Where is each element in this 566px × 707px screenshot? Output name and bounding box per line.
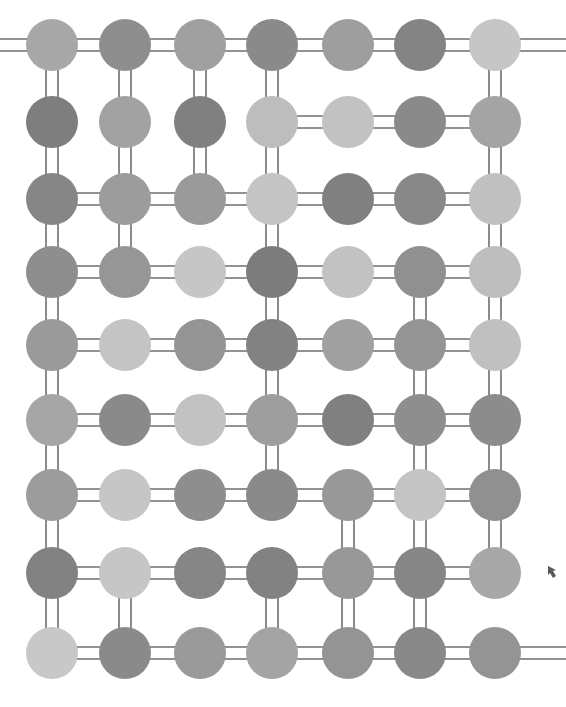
lattice-node[interactable]: [99, 627, 151, 679]
lattice-node[interactable]: [322, 319, 374, 371]
lattice-node[interactable]: [469, 319, 521, 371]
lattice-node[interactable]: [99, 246, 151, 298]
lattice-node[interactable]: [26, 96, 78, 148]
lattice-node[interactable]: [394, 547, 446, 599]
lattice-node[interactable]: [246, 19, 298, 71]
lattice-node[interactable]: [469, 394, 521, 446]
lattice-node[interactable]: [174, 469, 226, 521]
lattice-node[interactable]: [322, 469, 374, 521]
lattice-node[interactable]: [469, 19, 521, 71]
lattice-node[interactable]: [322, 173, 374, 225]
right-edge-tick-icon: [548, 566, 556, 578]
lattice-node[interactable]: [99, 394, 151, 446]
lattice-node[interactable]: [322, 394, 374, 446]
lattice-node[interactable]: [246, 627, 298, 679]
lattice-node[interactable]: [469, 173, 521, 225]
lattice-node[interactable]: [26, 627, 78, 679]
lattice-node[interactable]: [322, 19, 374, 71]
lattice-diagram: [0, 0, 566, 707]
lattice-node[interactable]: [322, 547, 374, 599]
lattice-node[interactable]: [99, 319, 151, 371]
lattice-node[interactable]: [394, 246, 446, 298]
lattice-node[interactable]: [26, 547, 78, 599]
lattice-node[interactable]: [246, 469, 298, 521]
lattice-node[interactable]: [394, 627, 446, 679]
lattice-node[interactable]: [394, 469, 446, 521]
lattice-node[interactable]: [394, 394, 446, 446]
lattice-node[interactable]: [246, 319, 298, 371]
lattice-node[interactable]: [469, 627, 521, 679]
lattice-node[interactable]: [174, 19, 226, 71]
lattice-node[interactable]: [469, 547, 521, 599]
lattice-node[interactable]: [394, 96, 446, 148]
lattice-node[interactable]: [246, 173, 298, 225]
lattice-node[interactable]: [99, 469, 151, 521]
lattice-node[interactable]: [469, 96, 521, 148]
lattice-node[interactable]: [469, 246, 521, 298]
lattice-node[interactable]: [322, 246, 374, 298]
lattice-node[interactable]: [26, 173, 78, 225]
lattice-node[interactable]: [99, 96, 151, 148]
lattice-node[interactable]: [26, 246, 78, 298]
lattice-node[interactable]: [246, 96, 298, 148]
nodes-layer: [26, 19, 521, 679]
lattice-node[interactable]: [469, 469, 521, 521]
lattice-node[interactable]: [99, 173, 151, 225]
lattice-node[interactable]: [174, 246, 226, 298]
lattice-node[interactable]: [246, 246, 298, 298]
lattice-node[interactable]: [99, 19, 151, 71]
lattice-node[interactable]: [26, 394, 78, 446]
lattice-node[interactable]: [174, 96, 226, 148]
lattice-node[interactable]: [26, 19, 78, 71]
lattice-node[interactable]: [174, 627, 226, 679]
lattice-node[interactable]: [99, 547, 151, 599]
lattice-node[interactable]: [246, 394, 298, 446]
lattice-canvas: [0, 0, 566, 707]
lattice-node[interactable]: [26, 469, 78, 521]
lattice-node[interactable]: [174, 319, 226, 371]
markers-layer: [548, 566, 556, 578]
lattice-node[interactable]: [394, 319, 446, 371]
lattice-node[interactable]: [322, 96, 374, 148]
lattice-node[interactable]: [322, 627, 374, 679]
lattice-node[interactable]: [246, 547, 298, 599]
lattice-node[interactable]: [174, 547, 226, 599]
lattice-node[interactable]: [26, 319, 78, 371]
lattice-node[interactable]: [174, 173, 226, 225]
lattice-node[interactable]: [174, 394, 226, 446]
lattice-node[interactable]: [394, 19, 446, 71]
lattice-node[interactable]: [394, 173, 446, 225]
